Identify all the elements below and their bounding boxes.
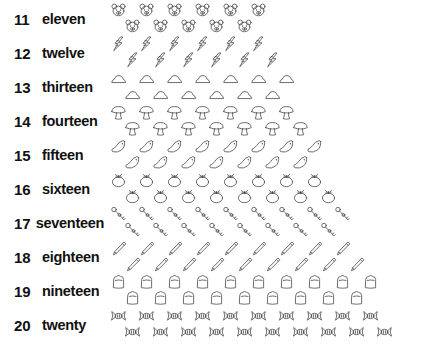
bear-face-icon bbox=[160, 2, 188, 19]
pencil-icon bbox=[244, 240, 272, 257]
lightning-bolt-icon bbox=[174, 52, 202, 69]
lightning-bolt-icon bbox=[216, 36, 244, 53]
candy-icon bbox=[286, 324, 314, 341]
candy-icon bbox=[272, 308, 300, 325]
tomato-icon bbox=[314, 188, 342, 205]
bread-slice-icon bbox=[314, 290, 342, 307]
counting-row: 13thirteen bbox=[0, 70, 431, 104]
row-numeral: 15 bbox=[14, 147, 42, 164]
counting-row: 19nineteen bbox=[0, 274, 431, 308]
mushroom-icon bbox=[202, 120, 230, 137]
counting-row: 20twenty bbox=[0, 308, 431, 342]
bear-face-icon bbox=[146, 18, 174, 35]
mushroom-icon bbox=[216, 104, 244, 121]
icon-line-top bbox=[104, 240, 356, 257]
cloud-icon bbox=[118, 86, 146, 103]
bread-slice-icon bbox=[202, 290, 230, 307]
bear-face-icon bbox=[174, 18, 202, 35]
icon-line-bottom bbox=[104, 324, 398, 341]
mushroom-icon bbox=[230, 120, 258, 137]
bird-icon bbox=[258, 154, 286, 171]
key-icon bbox=[244, 206, 272, 223]
pencil-icon bbox=[202, 256, 230, 273]
icon-line-top bbox=[104, 274, 384, 291]
bird-icon bbox=[272, 138, 300, 155]
row-word: eighteen bbox=[42, 249, 99, 265]
row-word: eleven bbox=[42, 11, 85, 27]
bread-slice-icon bbox=[328, 274, 356, 291]
bear-face-icon bbox=[118, 18, 146, 35]
row-label: 11eleven bbox=[0, 2, 104, 36]
row-label: 19nineteen bbox=[0, 274, 104, 308]
candy-icon bbox=[188, 308, 216, 325]
pencil-icon bbox=[104, 240, 132, 257]
bread-slice-icon bbox=[300, 274, 328, 291]
icon-line-bottom bbox=[104, 188, 342, 205]
bird-icon bbox=[202, 154, 230, 171]
row-label: 20twenty bbox=[0, 308, 104, 342]
icon-line-top bbox=[104, 172, 328, 189]
icon-line-top bbox=[104, 70, 300, 87]
bread-slice-icon bbox=[146, 290, 174, 307]
tomato-icon bbox=[174, 188, 202, 205]
pencil-icon bbox=[216, 240, 244, 257]
tomato-icon bbox=[146, 188, 174, 205]
row-numeral: 13 bbox=[14, 79, 42, 96]
icon-line-bottom bbox=[104, 18, 258, 35]
icon-line-top bbox=[104, 2, 272, 19]
bird-icon bbox=[216, 138, 244, 155]
row-icons bbox=[104, 308, 431, 342]
pencil-icon bbox=[328, 240, 356, 257]
candy-icon bbox=[118, 324, 146, 341]
cloud-icon bbox=[216, 70, 244, 87]
row-word: twenty bbox=[42, 317, 86, 333]
candy-icon bbox=[244, 308, 272, 325]
candy-icon bbox=[160, 308, 188, 325]
pencil-icon bbox=[160, 240, 188, 257]
key-icon bbox=[272, 206, 300, 223]
key-icon bbox=[174, 222, 202, 239]
cloud-icon bbox=[188, 70, 216, 87]
bread-slice-icon bbox=[160, 274, 188, 291]
counting-row: 14fourteen bbox=[0, 104, 431, 138]
counting-row: 12twelve bbox=[0, 36, 431, 70]
pencil-icon bbox=[272, 240, 300, 257]
bread-slice-icon bbox=[188, 274, 216, 291]
lightning-bolt-icon bbox=[118, 52, 146, 69]
candy-icon bbox=[146, 324, 174, 341]
mushroom-icon bbox=[188, 104, 216, 121]
candy-icon bbox=[258, 324, 286, 341]
row-icons bbox=[104, 274, 431, 308]
key-icon bbox=[258, 222, 286, 239]
row-numeral: 11 bbox=[14, 11, 42, 28]
lightning-bolt-icon bbox=[230, 52, 258, 69]
lightning-bolt-icon bbox=[188, 36, 216, 53]
row-icons bbox=[104, 36, 431, 70]
mushroom-icon bbox=[244, 104, 272, 121]
tomato-icon bbox=[286, 188, 314, 205]
key-icon bbox=[160, 206, 188, 223]
icon-line-bottom bbox=[104, 120, 314, 137]
tomato-icon bbox=[300, 172, 328, 189]
mushroom-icon bbox=[160, 104, 188, 121]
key-icon bbox=[118, 222, 146, 239]
bread-slice-icon bbox=[230, 290, 258, 307]
candy-icon bbox=[370, 324, 398, 341]
row-numeral: 18 bbox=[14, 249, 42, 266]
row-word: sixteen bbox=[42, 181, 90, 197]
candy-icon bbox=[328, 308, 356, 325]
cloud-icon bbox=[202, 86, 230, 103]
tomato-icon bbox=[230, 188, 258, 205]
cloud-icon bbox=[230, 86, 258, 103]
mushroom-icon bbox=[132, 104, 160, 121]
pencil-icon bbox=[342, 256, 370, 273]
tomato-icon bbox=[188, 172, 216, 189]
lightning-bolt-icon bbox=[104, 36, 132, 53]
cloud-icon bbox=[146, 86, 174, 103]
row-icons bbox=[104, 138, 431, 172]
bird-icon bbox=[132, 138, 160, 155]
pencil-icon bbox=[174, 256, 202, 273]
candy-icon bbox=[174, 324, 202, 341]
bread-slice-icon bbox=[258, 290, 286, 307]
bread-slice-icon bbox=[342, 290, 370, 307]
